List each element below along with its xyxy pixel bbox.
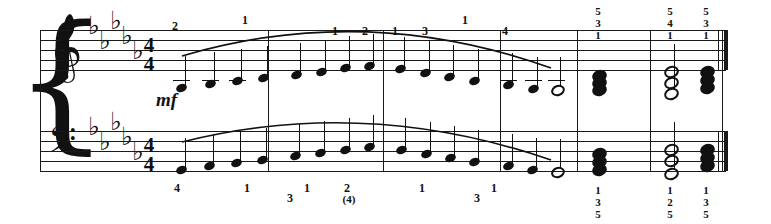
treble-note-stem (429, 41, 430, 71)
barline-1 (268, 30, 269, 171)
bass-note-stem (373, 115, 374, 145)
final-barline-thin-treble (718, 30, 719, 70)
fingering-digit: 1 (699, 30, 713, 42)
bass-note-stem (213, 134, 214, 164)
final-barline-thin-bass (718, 131, 719, 171)
bass-note-stem (478, 130, 479, 160)
treble-note-stem (478, 49, 479, 79)
bass-note-stem (560, 139, 561, 169)
bass-note-stem (349, 118, 350, 148)
final-barline-thick-bass (724, 131, 728, 171)
fingering-digit: 5 (699, 209, 713, 221)
bass-chord-fingering-1: 135 (591, 185, 605, 221)
treble-fingering-3: 1 (328, 25, 342, 37)
treble-ledger-line (548, 80, 565, 81)
fingering-digit: 3 (699, 18, 713, 30)
sheet-music-canvas: { 𝄞 𝄢 ♭♭♭♭♭♭♭♭♭♭ 4 4 4 4 mf 211213144131… (0, 0, 771, 224)
fingering-digit: 2 (663, 197, 677, 209)
fingering-digit: 3 (699, 197, 713, 209)
fingering-digit: 4 (663, 18, 677, 30)
bass-note-stem (240, 131, 241, 161)
treble-chord-fingering-3: 531 (699, 6, 713, 42)
treble-chord-stem (674, 44, 675, 90)
treble-note-stem (373, 34, 374, 64)
treble-note-stem (537, 57, 538, 87)
bass-fingering-4: 1 (300, 182, 314, 194)
treble-fingering-6: 3 (418, 25, 432, 37)
treble-ledger-line (525, 80, 542, 81)
barline-4 (577, 30, 578, 171)
treble-fingering-4: 2 (358, 25, 372, 37)
fingering-digit: 5 (663, 209, 677, 221)
treble-note-stem (241, 49, 242, 79)
bass-note-stem (512, 134, 513, 164)
bass-note-stem (324, 121, 325, 151)
treble-note-stem (453, 45, 454, 75)
treble-note-stem (185, 56, 186, 86)
treble-chord-fingering-2: 541 (663, 6, 677, 42)
fingering-digit: 1 (591, 30, 605, 42)
treble-fingering-1: 2 (168, 20, 182, 32)
treble-fingering-8: 4 (498, 25, 512, 37)
bass-fingering-alternate-paren: (4) (340, 194, 358, 205)
treble-note-stem (325, 40, 326, 70)
bass-chord-fingering-2: 125 (663, 185, 677, 221)
treble-ledger-line (173, 80, 190, 81)
bass-note-stem (405, 118, 406, 148)
bass-fingering-7: 3 (470, 192, 484, 204)
barline-3 (500, 30, 501, 171)
barline-5 (650, 30, 651, 171)
treble-note-stem (300, 43, 301, 73)
bass-fingering-1: 4 (170, 182, 184, 194)
treble-slur (0, 0, 771, 224)
treble-fingering-5: 1 (388, 25, 402, 37)
final-barline-thick-treble (724, 30, 728, 70)
treble-note-stem (560, 57, 561, 87)
treble-chord-fingering-1: 531 (591, 6, 605, 42)
bass-fingering-2: 1 (240, 182, 254, 194)
fingering-digit: 1 (663, 30, 677, 42)
treble-note-stem (512, 53, 513, 83)
bass-note-stem (299, 124, 300, 154)
bass-note-stem (454, 126, 455, 156)
bass-note-stem (430, 122, 431, 152)
bass-fingering-3: 3 (283, 192, 297, 204)
treble-note-stem (349, 36, 350, 66)
treble-fingering-7: 1 (458, 14, 472, 26)
bass-note-stem (536, 138, 537, 168)
bass-fingering-8: 1 (487, 182, 501, 194)
barline-left-edge (40, 30, 41, 171)
fingering-digit: 3 (591, 197, 605, 209)
fingering-digit: 3 (591, 18, 605, 30)
treble-note-stem (214, 52, 215, 82)
barline-2 (383, 30, 384, 171)
bass-fingering-6: 1 (415, 182, 429, 194)
bass-chord-stem (674, 122, 675, 170)
bass-note-stem (185, 138, 186, 168)
barline-6 (722, 30, 723, 171)
treble-fingering-2: 1 (238, 14, 252, 26)
treble-note-stem (404, 37, 405, 67)
bass-chord-fingering-3: 135 (699, 185, 713, 221)
fingering-digit: 5 (591, 209, 605, 221)
